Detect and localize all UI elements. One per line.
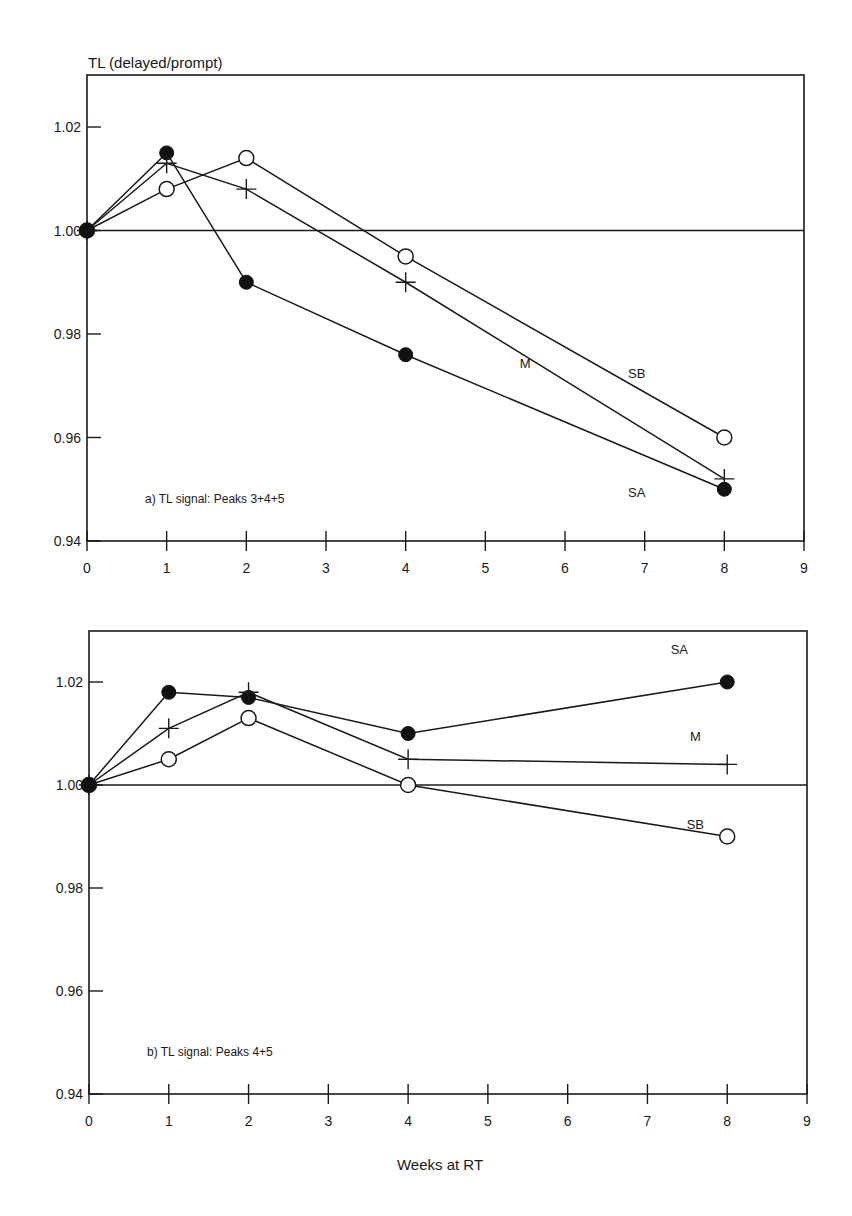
- open-circle-marker-icon: [398, 249, 413, 264]
- series-label: M: [690, 729, 701, 744]
- x-tick-label: 1: [163, 560, 171, 576]
- x-axis-title: Weeks at RT: [397, 1156, 483, 1173]
- x-tick-label: 7: [641, 560, 649, 576]
- series-label: SB: [687, 817, 704, 832]
- series-label: SB: [628, 366, 645, 381]
- y-tick-label: 0.94: [56, 1086, 83, 1102]
- open-circle-marker-icon: [241, 711, 256, 726]
- plot-frame: [87, 75, 804, 541]
- x-tick-label: 9: [800, 560, 808, 576]
- series-m: [77, 153, 734, 489]
- open-circle-marker-icon: [717, 430, 732, 445]
- x-tick-label: 2: [242, 560, 250, 576]
- x-tick-label: 0: [83, 560, 91, 576]
- filled-circle-marker-icon: [720, 675, 734, 689]
- y-tick-label: 0.98: [54, 326, 81, 342]
- plus-marker-icon: [398, 749, 418, 769]
- y-tick-label: 0.96: [56, 983, 83, 999]
- x-tick-label: 1: [165, 1113, 173, 1129]
- y-tick-label: 1.02: [54, 119, 81, 135]
- filled-circle-marker-icon: [239, 275, 253, 289]
- x-tick-label: 4: [404, 1113, 412, 1129]
- y-tick-label: 0.96: [54, 430, 81, 446]
- series-label: SA: [628, 485, 646, 500]
- x-tick-label: 5: [481, 560, 489, 576]
- y-axis-title: TL (delayed/prompt): [88, 54, 223, 71]
- x-tick-label: 9: [803, 1113, 811, 1129]
- plot-frame: [89, 631, 807, 1094]
- plus-marker-icon: [717, 754, 737, 774]
- x-tick-label: 8: [723, 1113, 731, 1129]
- x-tick-label: 6: [564, 1113, 572, 1129]
- plus-marker-icon: [157, 153, 177, 173]
- open-circle-marker-icon: [401, 778, 416, 793]
- series-sa: [80, 146, 731, 496]
- open-circle-marker-icon: [159, 182, 174, 197]
- chart-panel-a: 0.940.960.981.001.020123456789a) TL sign…: [54, 75, 808, 576]
- x-tick-label: 2: [245, 1113, 253, 1129]
- open-circle-marker-icon: [720, 829, 735, 844]
- panel-caption: b) TL signal: Peaks 4+5: [147, 1045, 273, 1059]
- filled-circle-marker-icon: [399, 348, 413, 362]
- y-tick-label: 0.98: [56, 880, 83, 896]
- x-tick-label: 3: [324, 1113, 332, 1129]
- x-tick-label: 8: [720, 560, 728, 576]
- series-sa: [82, 675, 734, 792]
- figure: TL (delayed/prompt) 0.940.960.981.001.02…: [0, 0, 852, 1216]
- y-tick-label: 1.02: [56, 674, 83, 690]
- series-label: M: [520, 356, 531, 371]
- chart-panel-b: 0.940.960.981.001.020123456789b) TL sign…: [56, 631, 811, 1129]
- open-circle-marker-icon: [239, 151, 254, 166]
- open-circle-marker-icon: [161, 752, 176, 767]
- y-tick-label: 0.94: [54, 533, 81, 549]
- x-tick-label: 3: [322, 560, 330, 576]
- x-tick-label: 7: [644, 1113, 652, 1129]
- series-label: SA: [671, 642, 689, 657]
- filled-circle-marker-icon: [401, 727, 415, 741]
- series-sb: [80, 151, 732, 445]
- x-tick-label: 6: [561, 560, 569, 576]
- plus-marker-icon: [159, 718, 179, 738]
- x-tick-label: 0: [85, 1113, 93, 1129]
- x-tick-label: 5: [484, 1113, 492, 1129]
- filled-circle-marker-icon: [162, 685, 176, 699]
- x-tick-label: 4: [402, 560, 410, 576]
- panel-caption: a) TL signal: Peaks 3+4+5: [145, 492, 285, 506]
- plus-marker-icon: [236, 179, 256, 199]
- chart-canvas: TL (delayed/prompt) 0.940.960.981.001.02…: [0, 0, 852, 1216]
- plus-marker-icon: [396, 272, 416, 292]
